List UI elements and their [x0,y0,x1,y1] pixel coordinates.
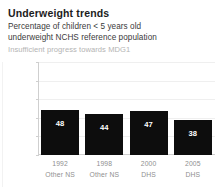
bar-value-label: 38 [188,129,197,138]
x-label-source: Other NS [38,169,82,180]
x-label-group: 2000 DHS [127,158,171,180]
chart-subtitle: Percentage of children < 5 years old und… [8,22,213,43]
x-label-year: 1998 [82,158,126,169]
bar-series: 48 44 47 38 [38,62,215,155]
chart-subtitle-line-2: underweight NCHS reference population [8,33,213,44]
bar-value-label: 44 [100,123,109,132]
bar-1992[interactable]: 48 [41,110,79,155]
bar-value-label: 47 [144,120,153,129]
bar-slot: 47 [127,62,171,155]
bar-1998[interactable]: 44 [85,114,123,155]
x-label-group: 1992 Other NS [38,158,82,180]
bar-value-label: 48 [56,119,65,128]
bar-2000[interactable]: 47 [130,111,168,155]
x-label-group: 2005 DHS [171,158,215,180]
progress-note: Insufficient progress towards MDG1 [8,45,213,55]
x-label-source: Other NS [82,169,126,180]
x-label-year: 2000 [127,158,171,169]
x-label-source: DHS [171,169,215,180]
x-label-year: 2005 [171,158,215,169]
bar-slot: 44 [82,62,126,155]
x-label-year: 1992 [38,158,82,169]
x-label-group: 1998 Other NS [82,158,126,180]
chart-header: Underweight trends Percentage of childre… [0,7,221,55]
x-axis-labels: 1992 Other NS 1998 Other NS 2000 DHS 200… [38,158,215,180]
underweight-trends-chart-card: Underweight trends Percentage of childre… [0,0,221,192]
chart-subtitle-line-1: Percentage of children < 5 years old [8,22,213,33]
ytick-mark-0 [36,155,39,156]
bar-2005[interactable]: 38 [174,120,212,155]
bar-slot: 38 [171,62,215,155]
x-label-source: DHS [127,169,171,180]
page-title: Underweight trends [8,7,213,20]
bar-slot: 48 [38,62,82,155]
chart-plot-area: 100% 80 60 40 20 0 48 44 47 [0,58,221,192]
